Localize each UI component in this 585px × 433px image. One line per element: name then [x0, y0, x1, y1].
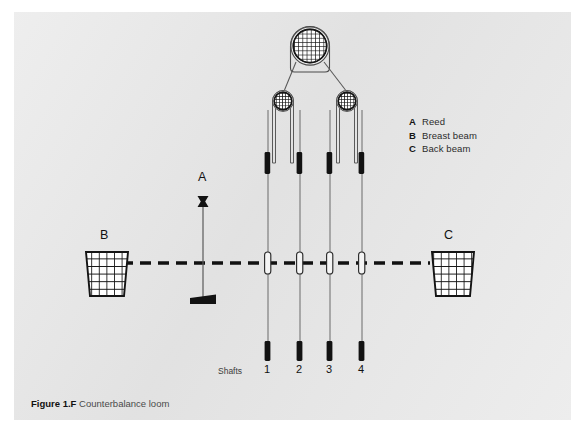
back-beam-mesh [432, 252, 474, 296]
shaft-number-2: 2 [292, 363, 306, 375]
shaft-top-bar-3 [327, 152, 333, 174]
back-beam-shape [432, 252, 474, 296]
shafts-word-label: Shafts [218, 366, 242, 376]
back-beam-label: C [444, 228, 453, 242]
heddles [265, 252, 365, 274]
figure-root: A B C Shafts 1 2 3 4 A Reed B Breast bea… [0, 0, 585, 433]
reed-label: A [198, 170, 206, 184]
legend-item-breast-beam: B Breast beam [409, 130, 529, 141]
legend-label-reed: Reed [422, 116, 445, 127]
reed-beater-assembly [190, 196, 216, 304]
legend-label-breast-beam: Breast beam [422, 130, 477, 141]
legend-label-back-beam: Back beam [422, 143, 470, 154]
top-pulley-assembly [291, 27, 331, 73]
figure-caption: Figure 1.F Counterbalance loom [31, 398, 169, 409]
right-pulley-assembly [337, 91, 359, 163]
caption-text: Counterbalance loom [79, 398, 169, 409]
legend-item-reed: A Reed [409, 116, 529, 127]
shaft-bottom-bar-3 [327, 341, 333, 361]
legend-key-c: C [409, 143, 422, 154]
shaft-bottom-bar-2 [297, 341, 303, 361]
shaft-top-bar-4 [359, 152, 365, 174]
shaft-top-bar-1 [265, 152, 271, 174]
heddle-3 [327, 252, 333, 274]
breast-beam-shape [86, 252, 128, 296]
shaft-top-bars [265, 152, 365, 174]
breast-beam-label: B [100, 228, 108, 242]
legend-key-a: A [409, 116, 422, 127]
heddle-1 [265, 252, 271, 274]
shaft-number-1: 1 [260, 363, 274, 375]
shaft-number-4: 4 [354, 363, 368, 375]
heddle-2 [297, 252, 303, 274]
legend-item-back-beam: C Back beam [409, 143, 529, 154]
legend-key-b: B [409, 130, 422, 141]
shaft-bottom-bar-1 [265, 341, 271, 361]
shaft-top-bar-2 [297, 152, 303, 174]
reed-icon [198, 196, 209, 207]
cord-top-to-right [324, 62, 346, 90]
shaft-number-3: 3 [322, 363, 336, 375]
shaft-cords [268, 110, 362, 357]
caption-number: Figure 1.F [31, 398, 76, 409]
breast-beam-mesh [86, 252, 128, 296]
legend: A Reed B Breast beam C Back beam [409, 116, 529, 157]
shaft-bottom-bars [265, 341, 365, 361]
shaft-bottom-bar-4 [359, 341, 365, 361]
left-pulley-assembly [273, 91, 295, 163]
heddle-4 [359, 252, 365, 274]
